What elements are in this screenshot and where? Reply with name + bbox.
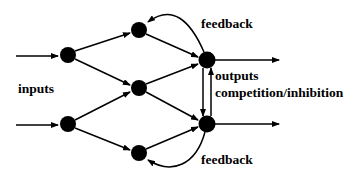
label-feedback-top: feedback (201, 16, 253, 31)
edge-hidden-middle-output-top (146, 64, 198, 84)
edge-input-top-hidden-top (75, 33, 130, 51)
edge-input-top-hidden-middle (75, 59, 130, 85)
node-hidden-bottom (131, 145, 147, 161)
node-output-top (199, 52, 216, 69)
nodes (60, 22, 216, 161)
feedback-arc-bottom (148, 132, 205, 167)
edge-hidden-middle-output-bottom (146, 92, 198, 120)
neural-network-diagram: inputs feedback outputs competition/inhi… (0, 0, 363, 177)
edge-hidden-top-output-top (146, 34, 198, 57)
node-input-top (60, 47, 76, 63)
labels: inputs feedback outputs competition/inhi… (18, 16, 344, 167)
competition-edges (203, 68, 211, 116)
label-competition-inhibition: competition/inhibition (215, 85, 344, 100)
feedback-arc-top (148, 14, 204, 52)
label-inputs: inputs (18, 81, 54, 96)
node-hidden-middle (131, 80, 147, 96)
node-input-bottom (60, 116, 76, 132)
edge-input-bottom-hidden-bottom (75, 128, 130, 150)
label-outputs: outputs (215, 68, 259, 83)
label-feedback-bottom: feedback (201, 152, 253, 167)
edge-hidden-bottom-output-bottom (146, 127, 198, 149)
node-hidden-top (131, 22, 147, 38)
edge-input-bottom-hidden-middle (75, 92, 130, 120)
node-output-bottom (199, 116, 216, 133)
